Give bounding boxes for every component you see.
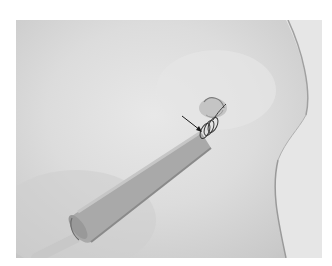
surgical-drape xyxy=(275,20,322,258)
clinical-photo xyxy=(16,20,322,258)
